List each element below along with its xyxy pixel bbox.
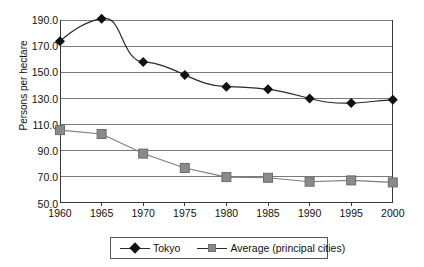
diamond-marker-icon	[120, 242, 150, 254]
series-markers-average	[56, 126, 398, 187]
legend-item-tokyo: Tokyo	[120, 242, 180, 254]
chart-legend: Tokyo Average (principal cities)	[110, 237, 328, 259]
legend-label-average: Average (principal cities)	[230, 242, 345, 254]
series-markers-tokyo	[55, 14, 398, 108]
x-tick-label: 2000	[367, 208, 419, 219]
legend-item-average: Average (principal cities)	[197, 242, 345, 254]
plot-area	[0, 0, 424, 267]
square-marker-icon	[197, 242, 227, 254]
chart-container: Persons per hectare 190.0 170.0 150.0 13…	[0, 0, 424, 267]
legend-label-tokyo: Tokyo	[153, 242, 180, 254]
